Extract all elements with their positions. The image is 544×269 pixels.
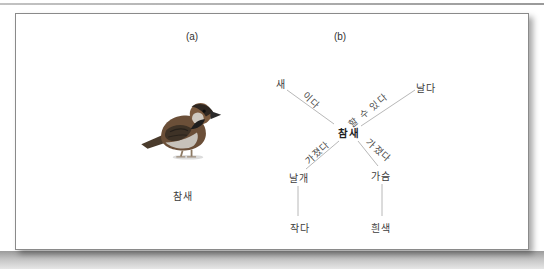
figure-card: (a) (b) 참새 — [15, 13, 529, 250]
node-bird: 새 — [276, 76, 286, 91]
network-edges — [16, 14, 528, 249]
node-small: 작다 — [290, 220, 310, 235]
node-wing: 날개 — [289, 170, 309, 185]
node-fly: 날다 — [416, 80, 436, 95]
top-divider — [0, 3, 544, 5]
node-white: 흰색 — [371, 220, 391, 235]
bottom-shadow-band — [0, 251, 544, 269]
node-chest: 가슴 — [371, 168, 391, 183]
